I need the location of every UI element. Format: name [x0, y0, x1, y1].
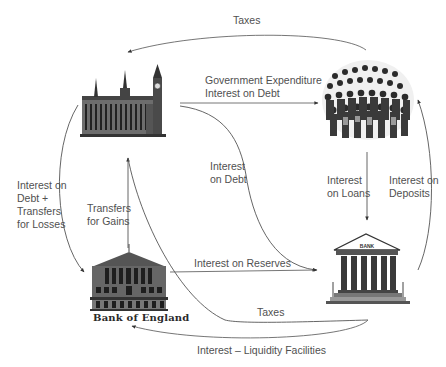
- arrow-interest-on-debt-gov-to-banks: [180, 106, 316, 270]
- bank-of-england-caption: Bank of England: [93, 312, 190, 323]
- arrow-taxes-public-to-government: [128, 35, 366, 52]
- label-interest-debt-transfers-losses: Interest on Debt + Transfers for Losses: [17, 179, 67, 231]
- parliament-icon: [80, 64, 166, 137]
- bank-of-england-icon: [90, 244, 168, 311]
- label-interest-on-deposits: Interest on Deposits: [389, 174, 439, 200]
- label-interest-on-loans: Interest on Loans: [327, 174, 370, 200]
- crowd-icon: [322, 60, 414, 140]
- label-government-expenditure: Government Expenditure Interest on Debt: [205, 74, 322, 100]
- label-taxes-top: Taxes: [233, 14, 260, 27]
- label-taxes-bottom: Taxes: [257, 306, 284, 319]
- label-interest-on-reserves: Interest on Reserves: [194, 257, 291, 270]
- bank-sign-text: BANK: [360, 243, 375, 249]
- label-transfers-for-gains: Transfers for Gains: [87, 202, 131, 228]
- label-interest-liquidity-facilities: Interest – Liquidity Facilities: [197, 344, 326, 357]
- arrow-interest-on-reserves: [170, 270, 317, 272]
- label-interest-on-debt-center: Interest on Debt: [210, 160, 247, 186]
